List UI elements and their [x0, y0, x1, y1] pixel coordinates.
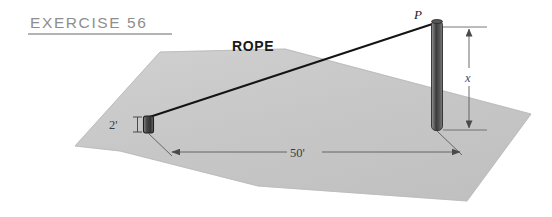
pole-top-cap — [432, 20, 443, 24]
rope-label: ROPE — [232, 38, 274, 54]
exercise-title-text: EXERCISE 56 — [30, 14, 148, 31]
exercise-title-group: EXERCISE 56 — [28, 14, 172, 34]
pole-shaft — [432, 21, 443, 131]
diagram-canvas: EXERCISE 56 ROPE P 2' — [0, 0, 552, 217]
pole-height-label: x — [464, 71, 471, 85]
post-height-label: 2' — [109, 118, 118, 132]
point-p-label: P — [413, 7, 422, 22]
ground-distance-label: 50' — [290, 146, 305, 160]
short-post-box — [144, 116, 154, 133]
exercise-figure: EXERCISE 56 ROPE P 2' — [0, 0, 552, 217]
